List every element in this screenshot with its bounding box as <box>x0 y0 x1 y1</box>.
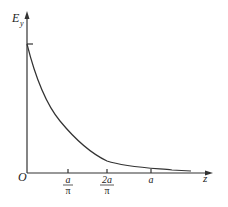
origin-label: O <box>18 170 27 184</box>
tick1-numerator: a <box>66 174 71 185</box>
tick1-denominator: π <box>65 185 70 196</box>
y-axis-arrow-icon <box>25 11 30 19</box>
decay-curve <box>27 44 191 171</box>
tick3-label: a <box>149 174 154 185</box>
tick2-denominator: π <box>104 185 109 196</box>
decay-diagram: E y O z a π 2a π a <box>0 0 228 207</box>
x-axis-label: z <box>202 172 208 184</box>
y-axis-label-subscript: y <box>19 19 24 28</box>
y-axis-label: E <box>11 11 20 25</box>
tick2-numerator: 2a <box>102 174 112 185</box>
